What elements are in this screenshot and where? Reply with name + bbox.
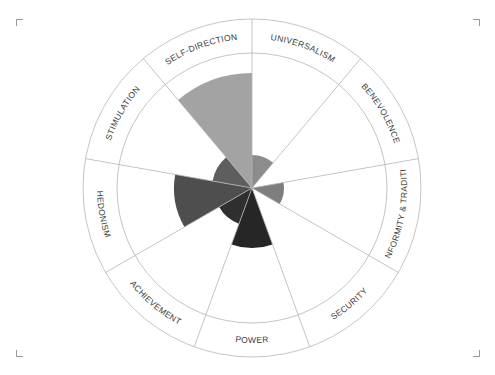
wedge-self-direction xyxy=(178,73,252,188)
divider-line xyxy=(252,59,361,188)
label-hedonism: HEDONISM xyxy=(95,191,113,239)
label-benevolence: BENEVOLENCE xyxy=(360,81,403,145)
label-self-direction: SELF-DIRECTION xyxy=(163,32,238,67)
divider-line xyxy=(252,188,398,273)
label-achievement: ACHIEVEMENT xyxy=(128,278,183,326)
wedge-universalism xyxy=(252,155,273,188)
sector-dividers xyxy=(86,19,419,347)
label-power: POWER xyxy=(235,334,269,345)
divider-line xyxy=(252,159,418,188)
label-security: SECURITY xyxy=(329,285,370,321)
values-wheel-chart: UNIVERSALISMBENEVOLENCECONFORMITY & TRAD… xyxy=(0,0,495,375)
sector-labels: UNIVERSALISMBENEVOLENCECONFORMITY & TRAD… xyxy=(0,0,409,345)
label-stimulation: STIMULATION xyxy=(103,84,142,141)
